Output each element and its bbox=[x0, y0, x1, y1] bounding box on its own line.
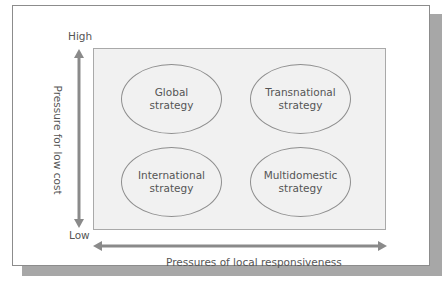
quadrant-label-line2: strategy bbox=[138, 182, 205, 195]
quadrant-label-line1: Global bbox=[150, 86, 194, 99]
y-axis-high-label: High bbox=[68, 30, 92, 42]
quadrant-label-line1: Transnational bbox=[265, 86, 335, 99]
quadrant-label-line2: strategy bbox=[265, 99, 335, 112]
quadrant-label-line2: strategy bbox=[264, 182, 338, 195]
quadrant-multidomestic-strategy: Multidomestic strategy bbox=[250, 147, 351, 217]
quadrant-label-line1: International bbox=[138, 169, 205, 182]
vertical-axis-arrow bbox=[74, 49, 84, 228]
y-axis-title: Pressure for low cost bbox=[52, 86, 64, 195]
quadrant-label-line1: Multidomestic bbox=[264, 169, 338, 182]
y-axis-low-label: Low bbox=[69, 229, 90, 241]
horizontal-axis-arrow bbox=[93, 241, 387, 251]
x-axis-title: Pressures of local responsiveness bbox=[166, 256, 342, 268]
quadrant-transnational-strategy: Transnational strategy bbox=[250, 64, 351, 134]
quadrant-global-strategy: Global strategy bbox=[121, 64, 222, 134]
quadrant-international-strategy: International strategy bbox=[121, 147, 222, 217]
quadrant-label-line2: strategy bbox=[150, 99, 194, 112]
